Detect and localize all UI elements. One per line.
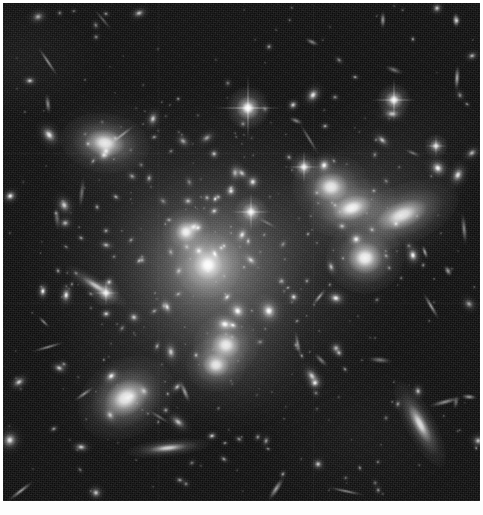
border-left bbox=[0, 0, 3, 515]
sky-mottle-layer bbox=[3, 3, 480, 501]
border-top bbox=[0, 0, 483, 3]
border-bottom bbox=[0, 501, 483, 515]
science-image-frame bbox=[3, 3, 480, 501]
astronomy-image-viewer bbox=[0, 0, 483, 515]
